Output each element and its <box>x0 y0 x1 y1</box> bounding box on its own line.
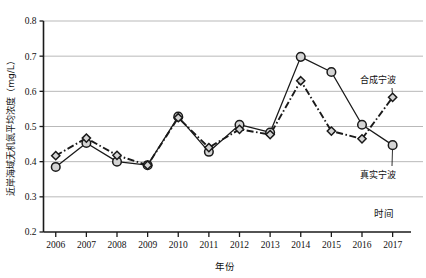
y-tick-label: 0.5 <box>25 122 37 132</box>
data-point-real <box>327 68 336 77</box>
data-point-real <box>358 120 367 129</box>
x-tick-label: 2014 <box>291 240 310 250</box>
x-tick-label: 2013 <box>261 240 280 250</box>
x-tick-label: 2012 <box>230 240 249 250</box>
y-tick-label: 0.2 <box>25 227 37 237</box>
x-tick-label: 2017 <box>383 240 402 250</box>
x-tick-label: 2010 <box>169 240 188 250</box>
inorganic-nitrogen-line-chart: 0.20.30.40.50.60.70.8 200620072008200920… <box>0 0 426 278</box>
x-tick-label: 2011 <box>200 240 219 250</box>
chart-container: 0.20.30.40.50.60.70.8 200620072008200920… <box>0 0 426 278</box>
y-tick-label: 0.3 <box>25 192 37 202</box>
y-tick-label: 0.7 <box>25 52 37 62</box>
legend-label-real: 真实宁波 <box>360 169 396 180</box>
x-tick-label: 2009 <box>138 240 157 250</box>
y-tick-label: 0.6 <box>25 87 37 97</box>
x-tick-label: 2007 <box>77 240 96 250</box>
y-tick-label: 0.8 <box>25 16 37 26</box>
x-tick-label: 2008 <box>108 240 127 250</box>
data-point-real <box>296 53 305 62</box>
x-tick-label: 2015 <box>322 240 341 250</box>
data-point-real <box>51 163 60 172</box>
x-tick-label: 2006 <box>46 240 65 250</box>
x-axis-title: 年份 <box>215 261 235 272</box>
data-point-real <box>388 141 397 150</box>
x-axis-end-annotation: 时间 <box>374 208 394 219</box>
y-axis-title: 近岸海域无机氮平均浓度（mg/L） <box>5 56 16 196</box>
x-tick-label: 2016 <box>353 240 372 250</box>
legend-label-synthetic: 合成宁波 <box>360 74 396 85</box>
y-tick-label: 0.4 <box>25 157 37 167</box>
